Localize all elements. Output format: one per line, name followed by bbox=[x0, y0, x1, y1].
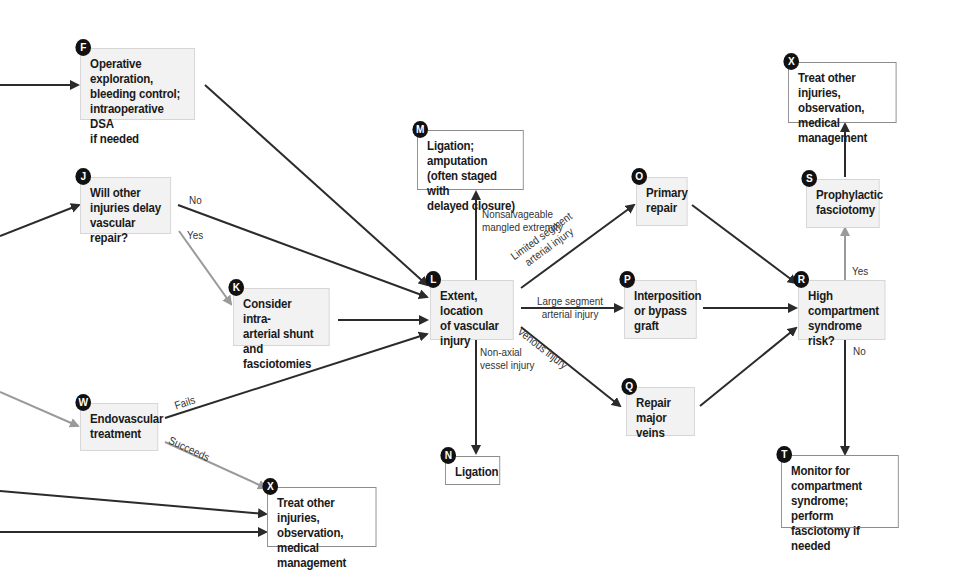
badge-L: L bbox=[425, 271, 441, 288]
node-O-primary-repair: O Primary repair bbox=[636, 177, 688, 226]
edge-label-j-yes: Yes bbox=[187, 229, 203, 242]
edge-label-j-no: No bbox=[189, 194, 202, 207]
node-text: Treat other injuries, observation, medic… bbox=[277, 496, 368, 570]
edge-label-nonaxial: Non-axial vessel injury bbox=[480, 346, 534, 372]
badge-X: X bbox=[783, 53, 799, 70]
node-K-shunt-fasciotomies: K Consider intra- arterial shunt and fas… bbox=[233, 288, 330, 346]
edge-label-r-no: No bbox=[853, 345, 866, 358]
node-S-prophylactic-fasciotomy: S Prophylactic fasciotomy bbox=[806, 179, 880, 228]
node-text: Primary repair bbox=[646, 186, 679, 216]
node-text: Repair major veins bbox=[636, 396, 687, 441]
node-text: Treat other injuries, observation, medic… bbox=[798, 71, 888, 146]
node-R-compartment-syndrome-risk: R High compartment syndrome risk? bbox=[798, 280, 885, 340]
badge-K: K bbox=[228, 279, 244, 296]
node-text: Endovascular treatment bbox=[90, 412, 150, 442]
flowchart-canvas: F Operative exploration, bleeding contro… bbox=[0, 0, 966, 570]
node-X-treat-other-injuries-top: X Treat other injuries, observation, med… bbox=[788, 62, 897, 123]
node-T-monitor-compartment-syndrome: T Monitor for compartment syndrome; perf… bbox=[781, 455, 899, 528]
node-text: Monitor for compartment syndrome; perfor… bbox=[791, 464, 890, 554]
badge-O: O bbox=[631, 168, 647, 185]
node-W-endovascular-treatment: W Endovascular treatment bbox=[80, 403, 158, 451]
node-text: Will other injuries delay vascular repai… bbox=[90, 186, 163, 246]
edge-in-W bbox=[0, 392, 78, 426]
badge-W: W bbox=[75, 394, 91, 411]
node-text: Ligation bbox=[455, 465, 492, 480]
edge-Q-R bbox=[700, 328, 796, 406]
node-F-operative-exploration: F Operative exploration, bleeding contro… bbox=[80, 48, 195, 120]
edge-in-X1-a bbox=[0, 491, 266, 514]
badge-T: T bbox=[776, 446, 792, 463]
badge-N: N bbox=[440, 447, 456, 464]
node-text: High compartment syndrome risk? bbox=[808, 289, 877, 349]
edge-in-J bbox=[0, 205, 79, 236]
node-text: Extent, location of vascular injury bbox=[440, 289, 505, 349]
node-J-other-injuries-question: J Will other injuries delay vascular rep… bbox=[80, 177, 171, 234]
edge-O-R bbox=[692, 205, 796, 283]
node-text: Prophylactic fasciotomy bbox=[816, 188, 871, 218]
badge-R: R bbox=[793, 271, 809, 288]
edge-label-large-segment: Large segment arterial injury bbox=[537, 295, 603, 321]
node-N-ligation: N Ligation bbox=[445, 456, 500, 485]
edge-label-r-yes: Yes bbox=[852, 265, 868, 278]
badge-J: J bbox=[75, 168, 91, 185]
node-text: Ligation; amputation (often staged with … bbox=[427, 139, 515, 214]
badge-Q: Q bbox=[621, 378, 637, 395]
node-text: Operative exploration, bleeding control;… bbox=[90, 57, 187, 147]
node-text: Consider intra- arterial shunt and fasci… bbox=[243, 297, 321, 372]
node-X-treat-other-injuries-bottom: X Treat other injuries, observation, med… bbox=[267, 487, 376, 547]
node-P-interposition-bypass: P Interposition or bypass graft bbox=[624, 280, 697, 339]
node-M-ligation-amputation: M Ligation; amputation (often staged wit… bbox=[417, 130, 524, 190]
badge-X: X bbox=[262, 478, 278, 495]
node-Q-repair-major-veins: Q Repair major veins bbox=[626, 387, 695, 436]
badge-S: S bbox=[801, 170, 817, 187]
node-L-extent-location: L Extent, location of vascular injury bbox=[430, 280, 514, 340]
node-text: Interposition or bypass graft bbox=[634, 289, 688, 334]
badge-F: F bbox=[75, 39, 91, 56]
badge-P: P bbox=[619, 271, 635, 288]
badge-M: M bbox=[412, 121, 428, 138]
